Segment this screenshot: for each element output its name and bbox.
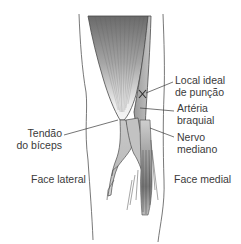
label-medial-face: Face medial — [174, 174, 231, 186]
elbow-anatomy-diagram: Local ideal de punção Artéria braquial N… — [0, 0, 241, 244]
label-median-nerve: Nervo mediano — [177, 132, 217, 155]
leader-nerve — [150, 128, 174, 137]
leader-puncture — [146, 82, 173, 93]
label-line: Local ideal — [175, 75, 225, 87]
label-line: mediano — [177, 144, 217, 156]
label-line: braquial — [177, 115, 214, 127]
label-puncture-site: Local ideal de punção — [175, 75, 225, 98]
label-line: Tendão — [14, 128, 62, 140]
label-line: do bíceps — [14, 140, 62, 152]
label-line: Nervo — [177, 132, 217, 144]
label-line: Artéria — [177, 103, 214, 115]
label-line: de punção — [175, 87, 225, 99]
label-biceps-tendon: Tendão do bíceps — [14, 128, 62, 151]
leader-biceps-tendon — [64, 120, 118, 135]
label-lateral-face: Face lateral — [31, 174, 86, 186]
label-brachial-artery: Artéria braquial — [177, 103, 214, 126]
